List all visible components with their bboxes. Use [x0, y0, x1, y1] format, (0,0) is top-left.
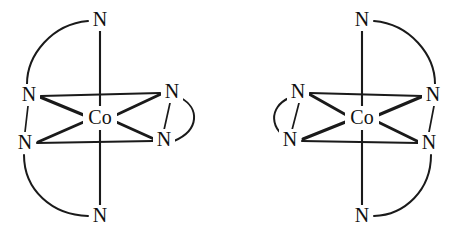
left-link-upper-right-to-lower-right: [164, 103, 170, 130]
right-atom-n-lower-right: N: [422, 131, 436, 153]
left-arc-lower-left-to-bottom: [24, 155, 88, 216]
chemical-structure-figure: N N N N N N Co: [0, 0, 469, 235]
structure-canvas: N N N N N N Co: [0, 0, 469, 235]
left-atom-n-axial-bottom: N: [93, 204, 107, 226]
right-arc-lower-right-to-bottom: [374, 155, 431, 216]
left-bond-equatorial-upper: [41, 93, 160, 96]
left-link-upper-left-to-lower-left: [25, 106, 28, 132]
left-atom-metal-co: Co: [88, 106, 111, 128]
left-atom-n-upper-right: N: [165, 80, 179, 102]
left-structure: N N N N N N Co: [14, 8, 194, 227]
right-bond-diagonal-lower-left: [303, 121, 348, 139]
left-bond-diagonal-upper-right: [114, 94, 161, 116]
right-atom-n-upper-right: N: [426, 83, 440, 105]
right-atom-metal-co: Co: [350, 106, 373, 128]
right-structure: N N N N N N Co: [274, 8, 444, 227]
left-atom-n-lower-left: N: [18, 131, 32, 153]
right-bond-diagonal-upper-right: [376, 97, 421, 116]
left-atom-n-upper-left: N: [22, 83, 36, 105]
right-bond-diagonal-lower-right: [376, 121, 419, 142]
right-atom-n-axial-bottom: N: [355, 204, 369, 226]
left-bond-diagonal-lower-left: [38, 121, 86, 142]
right-bond-equatorial-upper: [310, 93, 422, 96]
left-atom-n-axial-top: N: [93, 8, 107, 30]
left-arc-upper-right-to-lower-right: [174, 98, 194, 141]
left-atom-n-lower-right: N: [157, 128, 171, 150]
left-bond-diagonal-upper-left: [40, 97, 86, 116]
right-link-upper-left-to-lower-left: [292, 103, 299, 130]
right-bond-equatorial-lower: [302, 141, 418, 143]
right-arc-top-to-upper-right: [374, 21, 435, 84]
right-atom-n-axial-top: N: [355, 8, 369, 30]
right-atom-n-upper-left: N: [291, 80, 305, 102]
right-link-upper-right-to-lower-right: [429, 106, 434, 132]
left-bond-diagonal-lower-right: [114, 121, 154, 139]
right-atom-n-lower-left: N: [283, 128, 297, 150]
left-arc-top-to-upper-left: [27, 21, 88, 84]
right-bond-diagonal-upper-left: [309, 94, 348, 116]
left-bond-equatorial-lower: [37, 141, 153, 143]
